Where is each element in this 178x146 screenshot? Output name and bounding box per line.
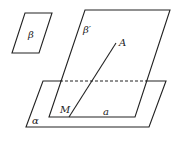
label-alpha: α bbox=[32, 116, 39, 126]
geometry-diagram: β β′ A M a α bbox=[0, 0, 178, 146]
label-beta-prime: β′ bbox=[83, 25, 91, 35]
diagram-svg bbox=[0, 0, 178, 146]
label-beta: β bbox=[28, 30, 34, 40]
label-point-a: A bbox=[119, 38, 126, 48]
occlusion-mask bbox=[61, 79, 146, 83]
label-line-a: a bbox=[103, 107, 109, 117]
label-point-m: M bbox=[60, 105, 70, 115]
plane-beta-prime bbox=[49, 10, 170, 117]
